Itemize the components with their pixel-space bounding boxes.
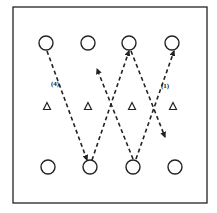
top-circle-4 bbox=[165, 36, 179, 50]
w-path-diagram: (4)(1) bbox=[0, 0, 217, 213]
triangle-marker-3 bbox=[129, 103, 136, 110]
triangle-marker-2 bbox=[85, 103, 92, 110]
bottom-circle-1 bbox=[41, 160, 55, 174]
top-circles bbox=[39, 36, 179, 50]
top-circle-1 bbox=[39, 36, 53, 50]
triangle-marker-4 bbox=[170, 103, 177, 110]
path-labels: (4)(1) bbox=[51, 80, 170, 90]
path-label-2: (1) bbox=[161, 82, 170, 90]
bottom-circle-3 bbox=[126, 160, 140, 174]
bottom-circle-2 bbox=[83, 160, 97, 174]
bottom-circle-4 bbox=[168, 160, 182, 174]
triangle-marker-1 bbox=[44, 103, 51, 110]
top-circle-2 bbox=[81, 36, 95, 50]
path-label-1: (4) bbox=[51, 80, 60, 88]
dashed-arrow-2 bbox=[92, 51, 129, 160]
top-circle-3 bbox=[122, 36, 136, 50]
dashed-arrow-4 bbox=[136, 51, 174, 159]
bottom-circles bbox=[41, 160, 182, 174]
dashed-arrow-5 bbox=[97, 69, 133, 159]
dashed-arrow-1 bbox=[47, 51, 87, 160]
dashed-arrow-paths bbox=[47, 51, 174, 160]
